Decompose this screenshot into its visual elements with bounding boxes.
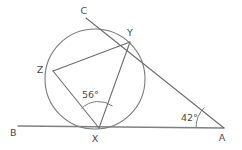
angle-value-at-a: 42°	[181, 112, 198, 123]
vertex-label-y: Y	[126, 27, 133, 38]
vertex-label-a: A	[219, 132, 226, 143]
vertex-label-b: B	[10, 127, 17, 138]
vertex-label-c: C	[81, 5, 88, 16]
vertex-label-x: X	[92, 133, 99, 144]
line-segment-XY	[99, 42, 130, 128]
geometry-diagram-canvas: B X A Z Y C 56° 42°	[0, 0, 242, 150]
geometry-figure: B X A Z Y C 56° 42°	[0, 0, 242, 150]
angle-value-at-x: 56°	[82, 89, 99, 100]
line-segment-BA	[18, 126, 224, 128]
line-segment-ZY	[53, 42, 130, 71]
vertex-label-z: Z	[37, 64, 44, 75]
line-segment-CA	[86, 18, 224, 128]
